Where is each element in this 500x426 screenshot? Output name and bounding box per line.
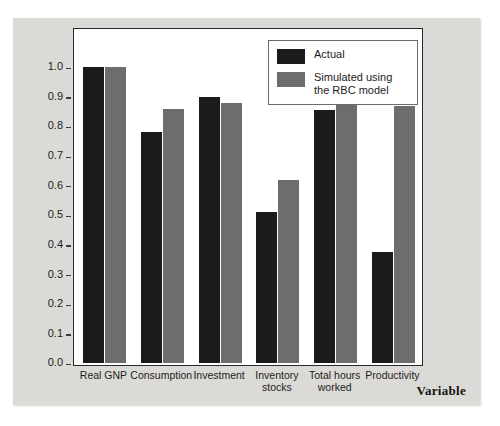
bar-simulated — [221, 103, 242, 364]
y-tick-mark — [66, 68, 71, 69]
y-tick-mark — [66, 127, 71, 128]
chart-legend: Actual Simulated using the RBC model — [268, 40, 418, 105]
legend-label-actual: Actual — [314, 48, 345, 61]
y-tick-label: 0.6 — [48, 179, 63, 191]
legend-swatch-actual — [277, 49, 305, 64]
y-tick-mark — [66, 186, 71, 187]
bar-simulated — [163, 109, 184, 364]
legend-label-simulated-line1: Simulated using — [314, 71, 392, 83]
bar-actual — [372, 252, 393, 363]
y-tick-mark — [66, 305, 71, 306]
y-tick-label: 0.4 — [48, 238, 63, 250]
legend-item-simulated: Simulated using the RBC model — [277, 71, 409, 96]
bar-group — [133, 31, 191, 364]
bar-simulated — [394, 106, 415, 364]
x-category-label-line: worked — [300, 382, 370, 394]
bar-actual — [83, 67, 104, 363]
y-tick-label: 0.5 — [48, 208, 63, 220]
chart-figure: Correlation 0.00.10.20.30.40.50.60.70.80… — [0, 0, 500, 426]
y-tick-label: 0.8 — [48, 119, 63, 131]
bar-simulated — [105, 67, 126, 363]
y-tick-mark — [66, 245, 71, 246]
y-tick-label: 0.2 — [48, 297, 63, 309]
y-tick-mark — [66, 97, 71, 98]
bar-group — [191, 31, 249, 364]
chart-panel: Correlation 0.00.10.20.30.40.50.60.70.80… — [13, 18, 480, 405]
y-tick-label: 0.0 — [48, 356, 63, 368]
legend-swatch-simulated — [277, 72, 305, 87]
legend-label-simulated-line2: the RBC model — [314, 84, 389, 96]
y-tick-label: 1.0 — [48, 60, 63, 72]
y-tick-mark — [66, 334, 71, 335]
legend-label-simulated: Simulated using the RBC model — [314, 71, 392, 96]
bar-actual — [314, 110, 335, 363]
y-tick-mark — [66, 216, 71, 217]
bar-actual — [199, 97, 220, 364]
bar-actual — [141, 132, 162, 363]
y-tick-label: 0.7 — [48, 149, 63, 161]
x-category-label: Productivity — [358, 370, 428, 382]
legend-item-actual: Actual — [277, 48, 409, 64]
bar-simulated — [336, 82, 357, 363]
bar-simulated — [278, 180, 299, 364]
x-axis-title: Variable — [416, 383, 466, 399]
bar-group — [76, 31, 134, 364]
y-tick-mark — [66, 364, 71, 365]
x-category-label-line: Productivity — [358, 370, 428, 382]
y-tick-label: 0.1 — [48, 327, 63, 339]
bar-actual — [256, 212, 277, 363]
y-tick-label: 0.9 — [48, 90, 63, 102]
y-tick-label: 0.3 — [48, 268, 63, 280]
y-tick-mark — [66, 157, 71, 158]
y-tick-mark — [66, 275, 71, 276]
